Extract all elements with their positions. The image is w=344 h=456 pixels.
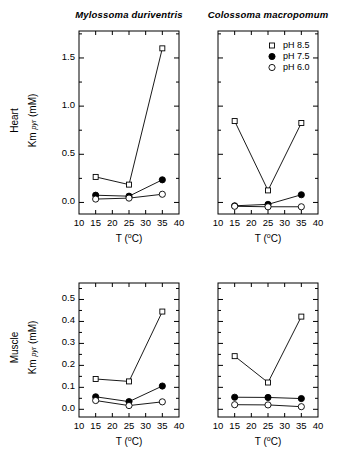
xtick-label: 40	[168, 217, 190, 228]
panel-title-colossoma: Colossoma macropomum	[192, 9, 344, 20]
panel-title-mylossoma: Mylossoma duriventris	[53, 9, 205, 20]
ytick-label: 0.0	[45, 402, 75, 413]
plot-heart-mylossoma	[78, 30, 180, 215]
y-axis-label-text: Km pyr (mM)	[27, 321, 38, 375]
figure-canvas: Mylossoma duriventrisColossoma macropomu…	[0, 0, 344, 456]
xtick-label: 40	[307, 420, 329, 431]
plot-muscle-colossoma	[217, 282, 319, 418]
plot-muscle-mylossoma	[78, 282, 180, 418]
x-axis-label-text: T (oC)	[116, 436, 143, 447]
series-muscle-colossoma-0	[232, 314, 304, 385]
x-axis-label-text: T (oC)	[255, 233, 282, 244]
ytick-label: 0.1	[45, 380, 75, 391]
series-muscle-mylossoma-0	[93, 309, 165, 384]
series-heart-colossoma-0	[232, 119, 304, 193]
ytick-label: 0.5	[45, 147, 75, 158]
ytick-label: 0.5	[45, 292, 75, 303]
series-muscle-colossoma-1	[232, 394, 305, 402]
y-axis-label: Km pyr (mM)	[27, 303, 38, 393]
x-axis-label: T (oC)	[79, 232, 179, 244]
xtick-label: 40	[307, 217, 329, 228]
ytick-label: 1.5	[45, 51, 75, 62]
series-heart-colossoma-2	[232, 203, 305, 210]
y-axis-label-text: Km pyr (mM)	[27, 93, 38, 147]
plot-heart-colossoma	[217, 30, 319, 215]
series-heart-mylossoma-0	[93, 46, 165, 187]
x-axis-label: T (oC)	[79, 435, 179, 447]
ytick-label: 0.4	[45, 314, 75, 325]
row-label-heart: Heart	[9, 90, 20, 150]
x-axis-label-text: T (oC)	[116, 233, 143, 244]
x-axis-label: T (oC)	[218, 232, 318, 244]
ytick-label: 0.0	[45, 195, 75, 206]
ytick-label: 0.3	[45, 336, 75, 347]
x-axis-label: T (oC)	[218, 435, 318, 447]
series-muscle-colossoma-2	[232, 402, 305, 410]
row-label-muscle: Muscle	[9, 318, 20, 378]
y-axis-label: Km pyr (mM)	[27, 75, 38, 165]
ytick-label: 0.2	[45, 358, 75, 369]
ytick-label: 1.0	[45, 99, 75, 110]
xtick-label: 40	[168, 420, 190, 431]
x-axis-label-text: T (oC)	[255, 436, 282, 447]
